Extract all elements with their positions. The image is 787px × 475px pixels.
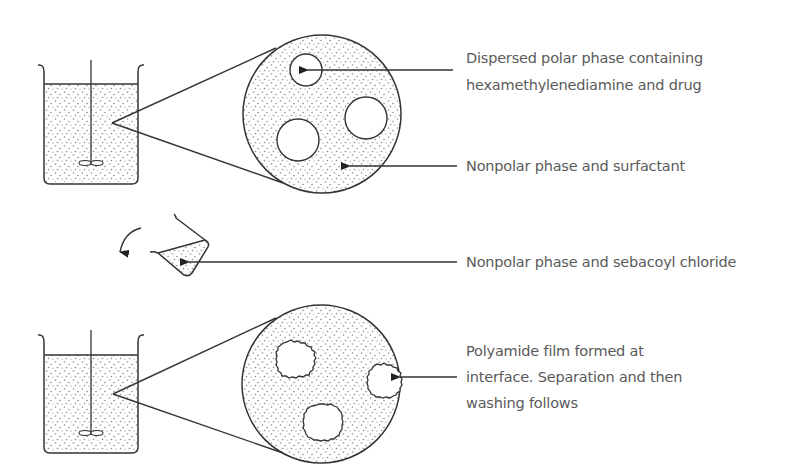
stirrer-1-blade-icon (79, 161, 91, 166)
polar-droplet (277, 119, 319, 161)
polar-droplet (345, 97, 387, 139)
polyamide-capsule (303, 404, 343, 441)
label-polyamide-film: Polyamide film formed at interface. Sepa… (466, 338, 682, 416)
label-line: washing follows (466, 390, 682, 416)
stirrer-2-blade-icon (79, 431, 91, 436)
label-dispersed-polar-phase: Dispersed polar phase containing hexamet… (466, 47, 703, 97)
label-line: interface. Separation and then (466, 364, 682, 390)
label-nonpolar-sebacoyl: Nonpolar phase and sebacoyl chloride (466, 251, 736, 274)
label-line: hexamethylenediamine and drug (466, 74, 703, 97)
label-nonpolar-surfactant: Nonpolar phase and surfactant (466, 155, 685, 178)
stirrer-1-blade-icon (91, 161, 103, 166)
magnified-view-2 (242, 305, 402, 463)
label-line: Polyamide film formed at (466, 338, 682, 364)
curved-pour-arrow-icon (120, 228, 141, 252)
label-line: Dispersed polar phase containing (466, 47, 703, 70)
label-line: Nonpolar phase and surfactant (466, 155, 685, 178)
polyamide-capsule (367, 363, 402, 398)
magnified-view-1 (243, 35, 401, 193)
label-line: Nonpolar phase and sebacoyl chloride (466, 251, 736, 274)
stirrer-2-blade-icon (91, 431, 103, 436)
beaker-1 (38, 60, 144, 184)
beaker-2 (38, 330, 144, 453)
tilted-beaker (150, 214, 209, 276)
